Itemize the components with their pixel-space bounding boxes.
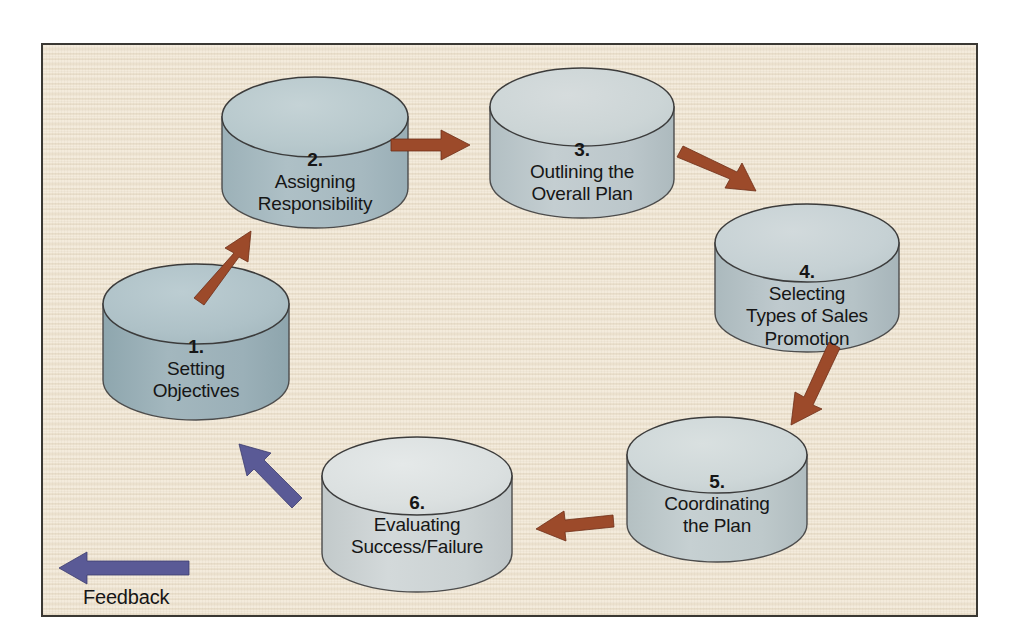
feedback-arrow-icon bbox=[59, 552, 189, 584]
arrow-3-to-4-icon bbox=[677, 146, 756, 191]
node-cylinder-5[interactable] bbox=[627, 417, 807, 562]
node-cylinder-6[interactable] bbox=[322, 437, 512, 592]
node-cylinder-1[interactable] bbox=[103, 264, 289, 420]
figure-canvas: 1. Setting Objectives 2. Assigning Respo… bbox=[0, 0, 1013, 644]
arrow-6-to-1-icon bbox=[239, 444, 302, 508]
diagram-graphics bbox=[43, 45, 978, 617]
node-cylinder-4[interactable] bbox=[715, 204, 899, 352]
node-cylinder-3[interactable] bbox=[490, 68, 674, 218]
diagram-frame: 1. Setting Objectives 2. Assigning Respo… bbox=[41, 43, 978, 617]
feedback-label: Feedback bbox=[83, 586, 169, 609]
arrow-5-to-6-icon bbox=[536, 511, 614, 541]
arrow-4-to-5-icon bbox=[791, 342, 840, 425]
node-cylinder-2[interactable] bbox=[222, 77, 408, 228]
